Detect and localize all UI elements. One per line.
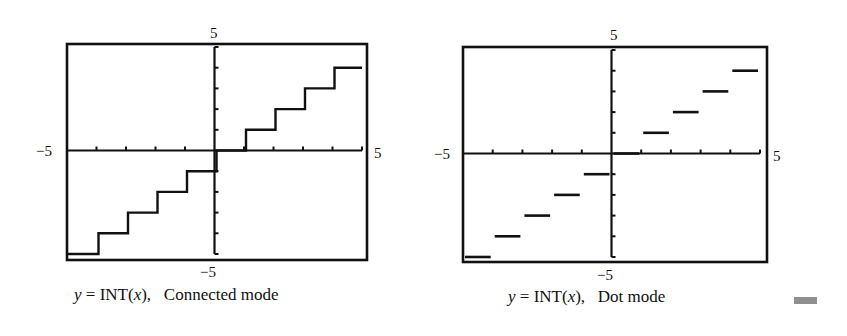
right-ymin-label: −5	[597, 268, 613, 283]
left-ymax-label: 5	[210, 26, 218, 41]
caption-y: y	[508, 287, 516, 306]
caption-func: = INT(	[82, 285, 134, 304]
gray-marker	[794, 297, 817, 304]
right-ymax-label: 5	[610, 28, 618, 43]
left-xmax-label: 5	[374, 146, 382, 161]
caption-func: = INT(	[516, 287, 568, 306]
right-xmin-label: −5	[434, 147, 450, 162]
left-ymin-label: −5	[200, 265, 216, 280]
caption-y: y	[74, 285, 82, 304]
caption-mode: ), Connected mode	[141, 285, 278, 304]
right-xmax-label: 5	[773, 149, 781, 164]
left-xmin-label: −5	[36, 144, 52, 159]
right-caption: y = INT(x), Dot mode	[508, 287, 665, 307]
caption-mode: ), Dot mode	[575, 287, 665, 306]
left-caption: y = INT(x), Connected mode	[74, 285, 279, 305]
